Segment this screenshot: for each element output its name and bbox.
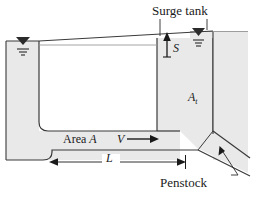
area-label-text: Area [63,132,86,146]
tank-area-subscript: t [195,97,197,106]
diagram-canvas [0,0,253,198]
surge-tank-diagram: Surge tank Penstock Area A V S At L [0,0,253,198]
surge-height-symbol-label: S [173,42,179,54]
length-symbol-label: L [106,152,113,164]
right-reservoir-upper-body-2 [213,32,248,160]
surge-tank-body [157,38,213,131]
velocity-symbol-label: V [117,133,124,145]
penstock-label: Penstock [160,176,207,189]
area-label-group: Area A [63,133,97,145]
conduit-interior-void [39,41,157,131]
area-symbol: A [89,132,96,146]
surge-tank-label: Surge tank [152,4,208,17]
tank-area-label-group: At [188,91,198,106]
